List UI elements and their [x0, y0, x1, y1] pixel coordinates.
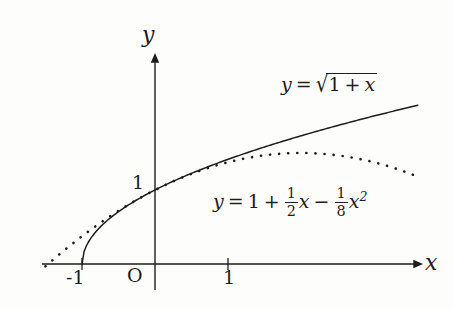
fraction-one-eighth-denominator: 8: [335, 204, 348, 219]
curve-label-square-root: y=√1+x: [281, 73, 377, 95]
math-figure: y x O -1 1 1 y=√1+x y=1+12x−18x2: [0, 0, 453, 309]
radical-group: √1+x: [316, 73, 377, 95]
sqrt-label-equals: =: [296, 73, 312, 95]
radicand-second-term: x: [364, 73, 375, 95]
poly-label-equals: =: [228, 190, 244, 212]
radicand-plus-sign: +: [344, 73, 360, 95]
fraction-one-half-numerator: 1: [285, 186, 298, 201]
poly-constant-term: 1: [248, 190, 260, 212]
radicand-first-term: 1: [328, 73, 340, 95]
poly-plus-sign: +: [264, 190, 280, 212]
fraction-one-eighth-numerator: 1: [335, 186, 348, 201]
fraction-one-half-denominator: 2: [285, 204, 298, 219]
x-tick-label-negative-one: -1: [66, 268, 85, 287]
y-axis-label: y: [142, 24, 154, 46]
radicand: 1+x: [326, 73, 377, 94]
fraction-one-half: 12: [285, 186, 298, 219]
x-tick-label-one: 1: [223, 268, 235, 287]
poly-label-y: y: [213, 190, 224, 212]
sqrt-label-y: y: [281, 73, 292, 95]
poly-linear-variable: x: [299, 190, 310, 212]
fraction-one-eighth: 18: [335, 186, 348, 219]
poly-exponent: 2: [359, 189, 367, 204]
x-axis-label: x: [425, 252, 437, 274]
y-tick-label-one: 1: [132, 173, 144, 192]
curve-label-quadratic: y=1+12x−18x2: [213, 186, 367, 219]
poly-quadratic-variable: x: [349, 190, 360, 212]
poly-minus-sign: −: [314, 190, 330, 212]
radical-sign: √: [316, 74, 329, 97]
plot-canvas: [0, 0, 453, 309]
origin-label: O: [127, 266, 143, 285]
